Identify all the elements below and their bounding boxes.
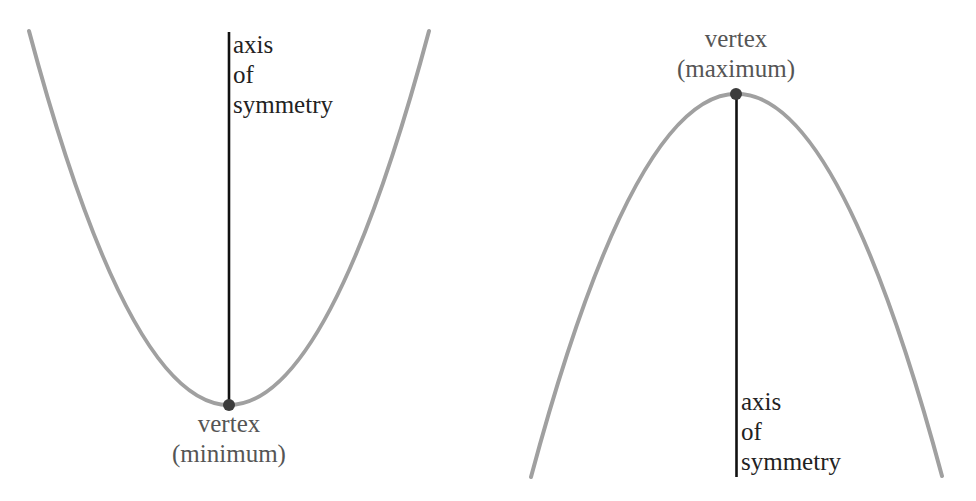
right-vertex-label: vertex (maximum) (661, 24, 811, 84)
right-vertex-label-line2: (maximum) (661, 54, 811, 84)
right-axis-label-line1: axis (741, 387, 841, 417)
left-axis-label-line1: axis (233, 30, 333, 60)
left-vertex-label-line2: (minimum) (154, 439, 304, 469)
right-vertex-label-line1: vertex (661, 24, 811, 54)
right-vertex-point (730, 88, 742, 100)
left-vertex-label-line1: vertex (154, 409, 304, 439)
right-axis-label-line3: symmetry (741, 447, 841, 477)
left-axis-label: axis of symmetry (233, 30, 333, 120)
right-axis-label-line2: of (741, 417, 841, 447)
left-vertex-label: vertex (minimum) (154, 409, 304, 469)
left-axis-label-line3: symmetry (233, 90, 333, 120)
right-axis-label: axis of symmetry (741, 387, 841, 477)
left-axis-label-line2: of (233, 60, 333, 90)
